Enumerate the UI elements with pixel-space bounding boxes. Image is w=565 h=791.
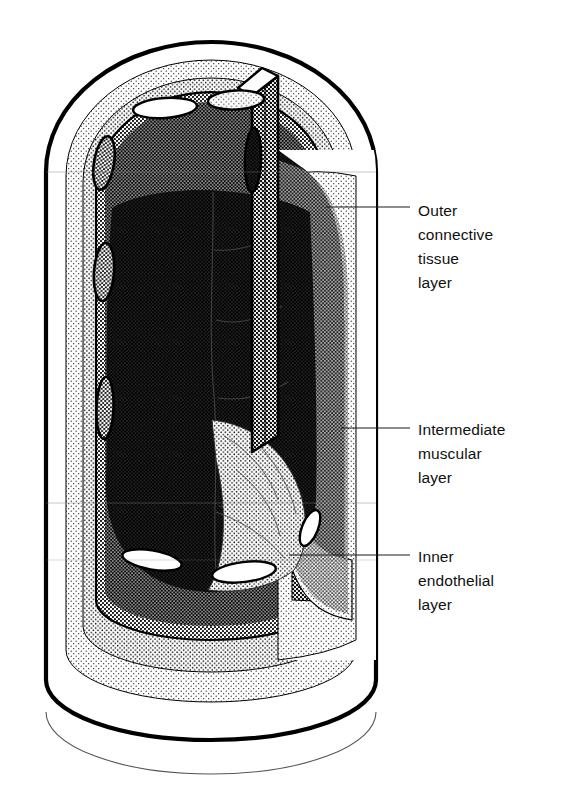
diagram-figure: Outer connective tissue layer Intermedia… xyxy=(0,0,565,791)
vessel-diagram-svg: Outer connective tissue layer Intermedia… xyxy=(0,0,565,791)
